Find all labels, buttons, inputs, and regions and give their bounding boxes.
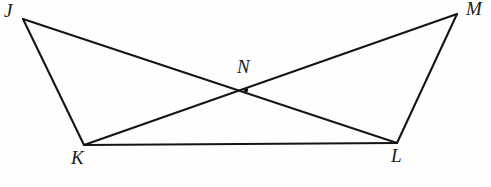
segment-KL bbox=[84, 143, 397, 145]
geometry-figure: J M K L N bbox=[0, 0, 491, 187]
segment-JK bbox=[23, 19, 84, 145]
segment-JL bbox=[23, 19, 397, 143]
segment-KM bbox=[84, 14, 457, 145]
segment-LM bbox=[397, 14, 457, 143]
vertex-label-K: K bbox=[71, 148, 84, 167]
vertex-label-N: N bbox=[237, 57, 250, 76]
vertex-label-M: M bbox=[466, 0, 482, 18]
vertex-label-L: L bbox=[391, 146, 402, 165]
vertex-label-J: J bbox=[4, 1, 12, 20]
vertex-point-N bbox=[244, 88, 248, 92]
